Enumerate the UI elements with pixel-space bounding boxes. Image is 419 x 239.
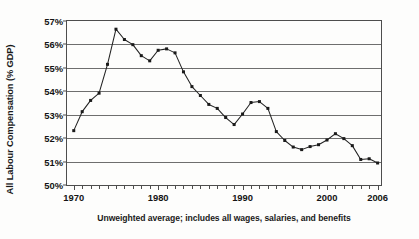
x-tick-mark bbox=[82, 185, 83, 189]
x-tick-mark bbox=[251, 185, 252, 189]
data-point-marker bbox=[368, 157, 371, 160]
x-tick-mark bbox=[183, 185, 184, 189]
x-tick-mark bbox=[310, 185, 311, 189]
x-tick-mark bbox=[378, 185, 379, 190]
x-tick-mark bbox=[141, 185, 142, 189]
x-tick-mark bbox=[302, 185, 303, 189]
y-tick-label: 57% bbox=[44, 16, 63, 27]
data-point-marker bbox=[89, 99, 92, 102]
x-tick-mark bbox=[217, 185, 218, 189]
data-point-marker bbox=[182, 70, 185, 73]
data-point-marker bbox=[250, 101, 253, 104]
x-tick-mark bbox=[293, 185, 294, 189]
data-point-marker bbox=[114, 28, 117, 31]
data-point-marker bbox=[174, 51, 177, 54]
y-tick-label: 51% bbox=[44, 156, 63, 167]
x-tick-mark bbox=[108, 185, 109, 189]
data-point-marker bbox=[233, 123, 236, 126]
data-point-marker bbox=[131, 43, 134, 46]
data-point-marker bbox=[325, 139, 328, 142]
x-tick-mark bbox=[226, 185, 227, 189]
y-tick-label: 53% bbox=[44, 109, 63, 120]
x-tick-label: 2006 bbox=[367, 192, 388, 203]
data-point-marker bbox=[140, 54, 143, 57]
x-tick-mark bbox=[243, 185, 244, 190]
data-point-marker bbox=[207, 103, 210, 106]
data-point-marker bbox=[165, 47, 168, 50]
y-tick-label: 56% bbox=[44, 39, 63, 50]
x-tick-mark bbox=[276, 185, 277, 189]
data-point-marker bbox=[300, 148, 303, 151]
data-series-labour-compensation bbox=[67, 21, 381, 185]
x-tick-mark bbox=[124, 185, 125, 189]
x-tick-mark bbox=[335, 185, 336, 189]
series-line bbox=[74, 29, 378, 163]
y-tick-label: 50% bbox=[44, 180, 63, 191]
x-tick-mark bbox=[99, 185, 100, 189]
x-tick-mark bbox=[369, 185, 370, 189]
plot-area: 50%51%52%53%54%55%56%57% 197019801990200… bbox=[66, 20, 382, 186]
x-tick-mark bbox=[116, 185, 117, 189]
data-point-marker bbox=[283, 139, 286, 142]
x-tick-mark bbox=[259, 185, 260, 189]
x-tick-mark bbox=[167, 185, 168, 189]
data-point-marker bbox=[216, 107, 219, 110]
y-tick-label: 54% bbox=[44, 86, 63, 97]
data-point-marker bbox=[148, 59, 151, 62]
x-tick-mark bbox=[150, 185, 151, 189]
data-point-marker bbox=[376, 161, 379, 164]
x-tick-mark bbox=[74, 185, 75, 190]
data-point-marker bbox=[123, 38, 126, 41]
data-point-marker bbox=[81, 110, 84, 113]
chart-caption: Unweighted average; includes all wages, … bbox=[66, 213, 382, 223]
data-point-marker bbox=[292, 146, 295, 149]
x-tick-mark bbox=[133, 185, 134, 189]
x-tick-mark bbox=[175, 185, 176, 189]
x-tick-mark bbox=[91, 185, 92, 189]
x-tick-mark bbox=[192, 185, 193, 189]
data-point-marker bbox=[199, 94, 202, 97]
data-point-marker bbox=[224, 116, 227, 119]
data-point-marker bbox=[190, 85, 193, 88]
x-tick-mark bbox=[200, 185, 201, 189]
x-tick-mark bbox=[268, 185, 269, 189]
data-point-marker bbox=[359, 158, 362, 161]
x-tick-mark bbox=[327, 185, 328, 190]
x-tick-mark bbox=[361, 185, 362, 189]
y-tick-label: 52% bbox=[44, 133, 63, 144]
data-point-marker bbox=[106, 63, 109, 66]
x-tick-label: 1980 bbox=[148, 192, 169, 203]
data-point-marker bbox=[157, 49, 160, 52]
data-point-marker bbox=[342, 137, 345, 140]
data-point-marker bbox=[317, 143, 320, 146]
x-tick-label: 1990 bbox=[232, 192, 253, 203]
y-tick-label: 55% bbox=[44, 62, 63, 73]
x-tick-mark bbox=[209, 185, 210, 189]
data-point-marker bbox=[266, 107, 269, 110]
data-point-marker bbox=[334, 132, 337, 135]
x-tick-label: 2000 bbox=[317, 192, 338, 203]
data-point-marker bbox=[258, 100, 261, 103]
x-tick-mark bbox=[319, 185, 320, 189]
data-point-marker bbox=[241, 113, 244, 116]
data-point-marker bbox=[309, 145, 312, 148]
x-tick-mark bbox=[234, 185, 235, 189]
data-point-marker bbox=[275, 130, 278, 133]
data-point-marker bbox=[351, 144, 354, 147]
x-tick-mark bbox=[344, 185, 345, 189]
data-point-marker bbox=[72, 129, 75, 132]
x-tick-mark bbox=[352, 185, 353, 189]
chart-figure: All Labour Compensation (% GDP) 50%51%52… bbox=[0, 0, 419, 239]
x-tick-mark bbox=[285, 185, 286, 189]
x-tick-label: 1970 bbox=[63, 192, 84, 203]
data-point-marker bbox=[98, 92, 101, 95]
x-tick-mark bbox=[158, 185, 159, 190]
y-axis-title: All Labour Compensation (% GDP) bbox=[0, 0, 20, 239]
